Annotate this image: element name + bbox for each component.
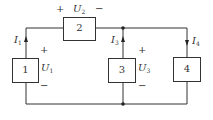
element-3-label: 3 bbox=[108, 65, 136, 75]
junction-top bbox=[121, 26, 125, 30]
element-2-label: 2 bbox=[63, 23, 96, 33]
u2-label: U2 bbox=[73, 4, 85, 15]
wire-bottom bbox=[26, 81, 187, 104]
u1-minus: − bbox=[40, 81, 48, 91]
u2-minus: − bbox=[95, 4, 103, 14]
u3-plus: + bbox=[138, 45, 146, 55]
u1-plus: + bbox=[40, 45, 48, 55]
u3-label: U3 bbox=[138, 63, 150, 74]
arrow-i1-icon bbox=[24, 36, 28, 42]
i3-label: I3 bbox=[111, 35, 119, 46]
u3-minus: − bbox=[138, 81, 146, 91]
circuit-wires bbox=[0, 0, 213, 120]
element-4-label: 4 bbox=[173, 64, 201, 74]
element-1-label: 1 bbox=[12, 65, 39, 75]
u2-plus: + bbox=[56, 4, 64, 14]
arrow-i3-icon bbox=[121, 36, 125, 42]
i4-label: I4 bbox=[192, 36, 200, 47]
junction-bottom bbox=[121, 102, 125, 106]
i1-label: I1 bbox=[14, 35, 22, 46]
u1-label: U1 bbox=[41, 63, 53, 74]
arrow-i4-icon bbox=[185, 40, 189, 46]
